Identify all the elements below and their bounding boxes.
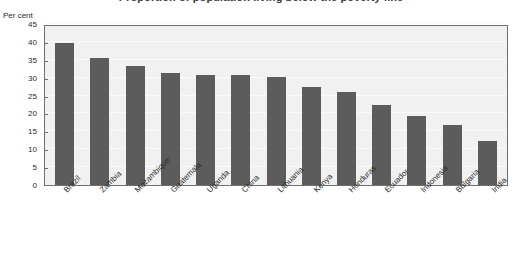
y-tick-label: 35	[3, 56, 37, 65]
bar-mozambique	[126, 66, 145, 185]
y-tick-label: 5	[3, 163, 37, 172]
y-tick-mark	[44, 150, 48, 151]
y-tick-mark	[44, 97, 48, 98]
y-tick-label: 45	[3, 20, 37, 29]
y-tick-label: 0	[3, 181, 37, 190]
bar-honduras	[337, 92, 356, 185]
y-axis-unit-label: Per cent	[3, 11, 33, 20]
chart-figure: Proportion of population living below th…	[0, 0, 522, 253]
y-tick-mark	[44, 79, 48, 80]
y-tick-mark	[44, 114, 48, 115]
bar-slot	[188, 26, 223, 185]
y-tick-label: 10	[3, 145, 37, 154]
bar-india	[478, 141, 497, 185]
bar-brazil	[55, 43, 74, 185]
plot-area	[44, 25, 508, 186]
bar-slot	[82, 26, 117, 185]
y-tick-mark	[44, 132, 48, 133]
y-tick-mark	[44, 168, 48, 169]
y-tick-label: 20	[3, 109, 37, 118]
bar-slot	[329, 26, 364, 185]
x-axis-labels: BrazilZambiaMozambiqueGuatemalaUgandaChi…	[44, 188, 508, 250]
y-tick-label: 25	[3, 92, 37, 101]
bar-ecuador	[372, 105, 391, 185]
chart-title-clipped: Proportion of population living below th…	[0, 0, 522, 9]
bar-bulgaria	[443, 125, 462, 185]
bar-indonesia	[407, 116, 426, 185]
gridline	[45, 23, 507, 24]
bar-slot	[399, 26, 434, 185]
y-tick-label: 15	[3, 127, 37, 136]
bar-slot	[294, 26, 329, 185]
bar-china	[231, 75, 250, 185]
bar-slot	[364, 26, 399, 185]
bar-slot	[47, 26, 82, 185]
chart-title: Proportion of population living below th…	[0, 0, 522, 3]
bar-lithuania	[267, 77, 286, 185]
bar-slot	[470, 26, 505, 185]
y-tick-label: 30	[3, 74, 37, 83]
bar-series	[45, 26, 507, 185]
bar-slot	[117, 26, 152, 185]
y-tick-mark	[44, 43, 48, 44]
bar-zambia	[90, 58, 109, 185]
bar-slot	[435, 26, 470, 185]
y-tick-label: 40	[3, 38, 37, 47]
y-tick-mark	[44, 61, 48, 62]
bar-slot	[223, 26, 258, 185]
bar-slot	[258, 26, 293, 185]
